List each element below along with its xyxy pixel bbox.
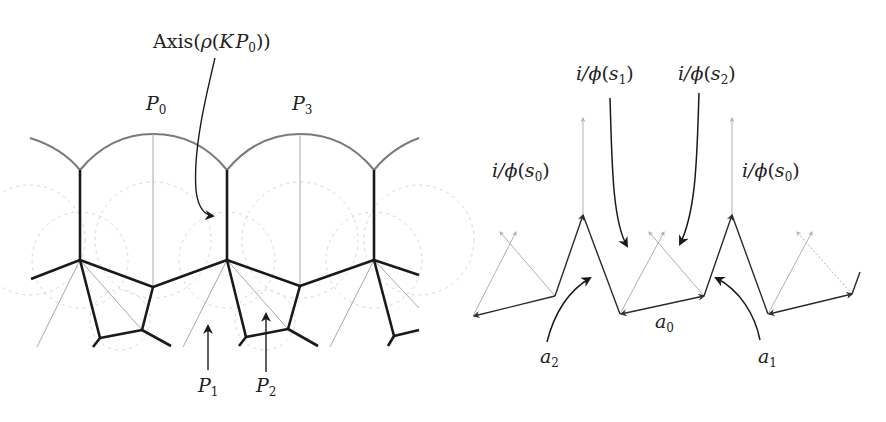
zigzag-arrow-diagram: i/ϕ(s1) i/ϕ(s2) i/ϕ(s0) i/ϕ(s0) a0 a2 a1: [473, 62, 860, 370]
a1-pointer-arrow: [716, 278, 760, 340]
thick-edges: [31, 170, 419, 347]
figure: Axis(ρ(KP0)) P0 P3 P1 P2: [0, 0, 886, 422]
thin-diagonals: [37, 260, 419, 347]
label-a2: a2: [540, 345, 559, 370]
faint-arrows: [473, 118, 852, 316]
label-p0: P0: [145, 92, 166, 117]
zigzag-path: [474, 215, 860, 316]
label-s1: i/ϕ(s1): [576, 62, 634, 87]
axis-pointer-arrow: [196, 58, 215, 216]
s1-pointer-arrow: [610, 98, 627, 246]
tiling-diagram: Axis(ρ(KP0)) P0 P3 P1 P2: [0, 30, 474, 399]
a2-pointer-arrow: [547, 278, 590, 342]
dashed-circles: [0, 182, 474, 350]
label-p2: P2: [255, 374, 276, 399]
label-p1: P1: [197, 374, 218, 399]
label-p3: P3: [291, 92, 312, 117]
label-s2: i/ϕ(s2): [678, 62, 736, 87]
label-a0: a0: [655, 310, 674, 335]
pointer-arrows: [547, 93, 760, 342]
annotation-arrows: [196, 58, 266, 372]
axis-label: Axis(ρ(KP0)): [152, 30, 271, 55]
label-a1: a1: [758, 345, 777, 370]
label-s0-left: i/ϕ(s0): [492, 159, 550, 184]
label-s0-right: i/ϕ(s0): [742, 159, 800, 184]
horocycle-arcs: [30, 134, 419, 170]
s2-pointer-arrow: [680, 93, 699, 244]
